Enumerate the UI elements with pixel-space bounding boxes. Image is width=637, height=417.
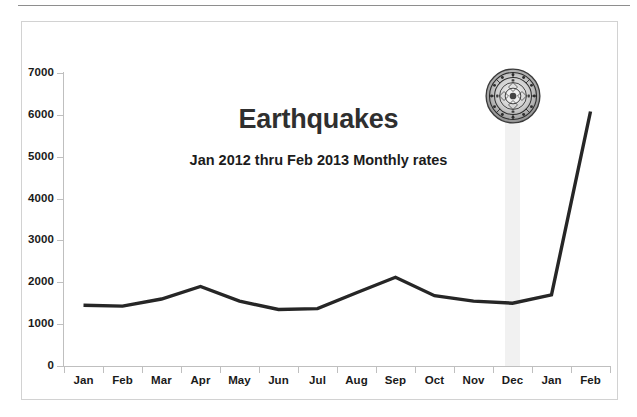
value-axis-tick-label: 7000 bbox=[8, 67, 54, 79]
category-axis-tick-label: Feb bbox=[103, 375, 142, 387]
value-axis-tick-mark bbox=[57, 282, 63, 283]
category-axis-tick-label: Jun bbox=[259, 375, 298, 387]
value-axis-tick-label: 3000 bbox=[8, 234, 54, 246]
category-axis-tick-mark bbox=[571, 367, 572, 373]
category-axis-tick-label: Mar bbox=[142, 375, 181, 387]
category-axis-tick-label: Jan bbox=[532, 375, 571, 387]
category-axis-tick-mark bbox=[103, 367, 104, 373]
value-axis-tick-label-text: 0 bbox=[8, 360, 54, 372]
value-axis-tick-label: 1000 bbox=[8, 318, 54, 330]
value-axis-tick-label: 2000 bbox=[8, 276, 54, 288]
category-axis-tick-mark bbox=[220, 367, 221, 373]
value-axis-tick-label-text: 7000 bbox=[8, 67, 54, 79]
value-axis-tick-label-text: 2000 bbox=[8, 276, 54, 288]
category-axis-tick-label: Oct bbox=[415, 375, 454, 387]
category-axis-tick-mark bbox=[259, 367, 260, 373]
page-top-divider bbox=[18, 5, 630, 6]
category-axis-tick-mark bbox=[415, 367, 416, 373]
value-axis-tick-mark bbox=[57, 199, 63, 200]
value-axis-tick-label-text: 4000 bbox=[8, 193, 54, 205]
category-axis-tick-label: Sep bbox=[376, 375, 415, 387]
category-axis-tick-mark bbox=[454, 367, 455, 373]
category-axis-tick-mark bbox=[337, 367, 338, 373]
chart-subtitle: Jan 2012 thru Feb 2013 Monthly rates bbox=[0, 152, 637, 168]
chart-page: 01000200030004000500060007000 JanFebMarA… bbox=[0, 0, 637, 417]
chart-title: Earthquakes bbox=[0, 104, 637, 135]
category-axis-tick-mark bbox=[376, 367, 377, 373]
value-axis-tick-label: 0 bbox=[8, 360, 54, 372]
category-axis-tick-mark bbox=[181, 367, 182, 373]
category-axis-tick-label: Feb bbox=[571, 375, 610, 387]
category-axis-tick-label: Nov bbox=[454, 375, 493, 387]
category-axis-tick-mark bbox=[532, 367, 533, 373]
december-highlight-band bbox=[505, 96, 520, 366]
category-axis-tick-mark bbox=[610, 367, 611, 373]
category-axis-tick-label: Jan bbox=[64, 375, 103, 387]
category-axis-tick-mark bbox=[298, 367, 299, 373]
value-axis-tick-mark bbox=[57, 366, 63, 367]
value-axis-tick-label-text: 1000 bbox=[8, 318, 54, 330]
category-axis-tick-label: May bbox=[220, 375, 259, 387]
value-axis-tick-mark bbox=[57, 73, 63, 74]
category-axis-tick-mark bbox=[142, 367, 143, 373]
category-axis-tick-mark bbox=[493, 367, 494, 373]
value-axis-tick-mark bbox=[57, 324, 63, 325]
category-axis-tick-mark bbox=[64, 367, 65, 373]
value-axis-tick-label: 4000 bbox=[8, 193, 54, 205]
category-axis-tick-label: Jul bbox=[298, 375, 337, 387]
category-axis-tick-label: Apr bbox=[181, 375, 220, 387]
category-axis-tick-label: Aug bbox=[337, 375, 376, 387]
value-axis-tick-label-text: 3000 bbox=[8, 234, 54, 246]
value-axis-tick-mark bbox=[57, 240, 63, 241]
category-axis-tick-label: Dec bbox=[493, 375, 532, 387]
